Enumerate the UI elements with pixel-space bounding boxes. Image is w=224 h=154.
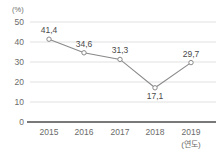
y-tick-label-20: 20: [15, 77, 25, 87]
data-point-marker-2019[interactable]: [189, 60, 193, 64]
x-tick-label-2016: 2016: [75, 127, 94, 137]
y-tick-label-10: 10: [15, 97, 25, 107]
data-point-marker-2016[interactable]: [82, 51, 86, 55]
x-tick-label-2017: 2017: [111, 127, 130, 137]
y-axis-tick-labels: 50 40 30 20 10 0: [15, 17, 25, 127]
y-tick-label-50: 50: [15, 17, 25, 27]
x-tick-label-2019: 2019: [182, 127, 201, 137]
data-label-2015: 41,4: [41, 25, 58, 35]
data-label-2017: 31,3: [112, 45, 129, 55]
x-axis-unit-label: (연도): [181, 140, 201, 149]
data-point-marker-2017[interactable]: [118, 57, 122, 61]
data-label-2019: 29,7: [183, 49, 200, 59]
y-tick-label-40: 40: [15, 37, 25, 47]
chart-canvas: (%) 50 40 30 20 10 0 41,4 34,6 31,3 17,1…: [0, 0, 224, 154]
y-axis-unit-label: (%): [12, 5, 24, 14]
data-point-marker-2018[interactable]: [153, 86, 157, 90]
data-label-2018: 17,1: [147, 91, 164, 101]
y-tick-label-30: 30: [15, 57, 25, 67]
line-chart: (%) 50 40 30 20 10 0 41,4 34,6 31,3 17,1…: [0, 0, 224, 154]
x-axis-tick-labels: 2015 2016 2017 2018 2019: [40, 127, 201, 137]
x-tick-label-2018: 2018: [146, 127, 165, 137]
y-tick-label-0: 0: [19, 117, 24, 127]
data-label-2016: 34,6: [76, 39, 93, 49]
data-point-marker-2015[interactable]: [47, 37, 51, 41]
x-tick-label-2015: 2015: [40, 127, 59, 137]
data-point-labels: 41,4 34,6 31,3 17,1 29,7: [41, 25, 200, 101]
